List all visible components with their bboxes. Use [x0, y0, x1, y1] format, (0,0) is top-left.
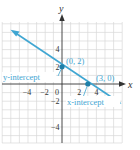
y-tick-label: 2 — [56, 63, 60, 72]
x-tick-label: −2 — [40, 88, 49, 97]
point-x-intercept — [85, 81, 90, 86]
coordinate-plane: x y −4 −2 0 2 4 4 2 −2 −4 (0, 2) (3, 0) … — [0, 0, 140, 150]
y-tick-label: −4 — [51, 123, 60, 132]
x-tick-label: −4 — [23, 88, 32, 97]
y-tick-label: 4 — [56, 45, 60, 54]
x-intercept-annotation: x-intercept — [67, 97, 104, 107]
x-tick-label: 0 — [55, 88, 59, 97]
y-axis-label: y — [58, 3, 64, 14]
x-axis-label: x — [127, 79, 133, 90]
point-label-x-intercept: (3, 0) — [96, 73, 115, 83]
point-label-y-intercept: (0, 2) — [66, 56, 85, 66]
x-intercept-pointer — [84, 87, 87, 96]
y-tick-label: −2 — [51, 97, 60, 106]
y-axis-arrow-icon — [59, 14, 64, 21]
y-intercept-annotation: y-intercept — [3, 72, 40, 82]
point-y-intercept — [59, 64, 64, 69]
